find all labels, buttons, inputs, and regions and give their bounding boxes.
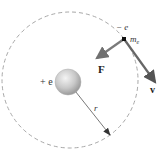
radius-label: r — [94, 103, 98, 113]
velocity-label: v — [150, 84, 155, 95]
electron-dot — [122, 37, 126, 41]
electron-charge-label: − e — [116, 22, 128, 32]
diagram-canvas: + e − e me F v r — [0, 0, 165, 155]
nucleus-charge-label: + e — [40, 76, 53, 87]
nucleus — [55, 69, 81, 95]
force-vector-arrow — [97, 39, 124, 58]
electron-mass-label: me — [130, 34, 140, 45]
force-label: F — [98, 63, 105, 75]
velocity-vector-arrow — [124, 39, 155, 82]
bohr-atom-diagram: + e − e me F v r — [0, 0, 165, 155]
